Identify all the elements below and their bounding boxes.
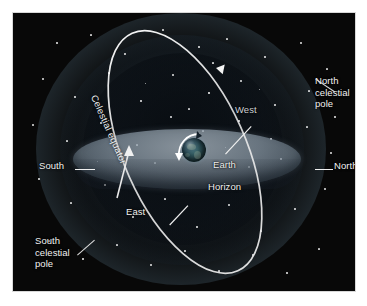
star bbox=[300, 42, 301, 43]
star bbox=[42, 78, 43, 79]
equator-direction-arrow-top bbox=[215, 62, 228, 75]
star bbox=[38, 178, 40, 180]
star bbox=[252, 254, 253, 255]
star bbox=[104, 184, 105, 185]
horizon-label: Horizon bbox=[208, 181, 241, 193]
star bbox=[90, 34, 91, 35]
star bbox=[226, 38, 227, 39]
star bbox=[240, 80, 241, 81]
star bbox=[238, 120, 240, 122]
star bbox=[318, 248, 319, 249]
north-label: North bbox=[334, 160, 355, 172]
star bbox=[124, 53, 126, 55]
star bbox=[188, 108, 189, 109]
star bbox=[330, 152, 331, 153]
star bbox=[208, 92, 210, 94]
star bbox=[196, 226, 198, 228]
west-label: West bbox=[235, 104, 257, 116]
star bbox=[326, 68, 327, 69]
star bbox=[334, 116, 336, 118]
star bbox=[66, 140, 67, 141]
star bbox=[260, 230, 261, 231]
star bbox=[32, 124, 33, 125]
star bbox=[145, 83, 146, 84]
star bbox=[324, 188, 325, 189]
star bbox=[264, 56, 266, 58]
star bbox=[274, 104, 276, 106]
earth-rotation-arrow bbox=[171, 129, 215, 173]
south-celestial-pole-label: South celestial pole bbox=[35, 235, 93, 270]
star bbox=[150, 264, 151, 265]
star bbox=[259, 89, 260, 90]
sky-panel: North celestial pole South celestial pol… bbox=[13, 13, 355, 291]
earth-globe-group bbox=[181, 135, 208, 164]
star bbox=[212, 62, 213, 63]
star bbox=[108, 72, 109, 73]
star bbox=[294, 208, 296, 210]
north-leader-line bbox=[315, 169, 333, 170]
star bbox=[172, 74, 173, 75]
star bbox=[140, 100, 142, 102]
star bbox=[228, 204, 229, 205]
north-celestial-pole-label: North celestial pole bbox=[315, 75, 355, 110]
star bbox=[74, 96, 76, 98]
star bbox=[306, 126, 307, 127]
star bbox=[308, 90, 309, 91]
star bbox=[56, 42, 58, 44]
earth-label: Earth bbox=[213, 159, 236, 171]
east-leader-line bbox=[170, 206, 188, 225]
star bbox=[116, 244, 117, 245]
star bbox=[70, 202, 71, 203]
star bbox=[184, 250, 186, 252]
star bbox=[162, 29, 163, 30]
star bbox=[170, 116, 171, 117]
star bbox=[286, 272, 288, 274]
star bbox=[164, 198, 165, 199]
star bbox=[198, 46, 200, 48]
south-label: South bbox=[39, 160, 64, 172]
east-label: East bbox=[126, 206, 145, 218]
star bbox=[218, 270, 219, 271]
celestial-sphere-figure: North celestial pole South celestial pol… bbox=[0, 0, 367, 306]
